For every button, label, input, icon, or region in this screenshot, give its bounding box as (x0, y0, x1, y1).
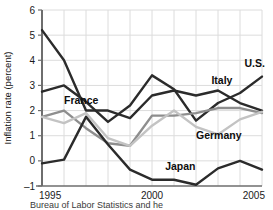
y-axis-label: Inflation rate (percent) (2, 52, 13, 145)
chart-figure: –10123456 199520002005 FranceItalyU.S.Ge… (0, 0, 273, 210)
y-tick-label: 3 (29, 80, 35, 91)
y-axis-title: Inflation rate (percent) (2, 52, 13, 145)
inflation-rate-line-chart: –10123456 199520002005 FranceItalyU.S.Ge… (0, 0, 273, 210)
series-inline-labels: FranceItalyU.S.GermanyJapan (64, 57, 265, 172)
y-tick-label: 4 (29, 55, 35, 66)
x-tick-label: 2005 (243, 190, 266, 201)
y-axis-ticks: –10123456 (24, 5, 42, 192)
y-tick-label: –1 (24, 181, 36, 192)
series-label-japan: Japan (165, 160, 195, 172)
y-tick-label: 6 (29, 5, 35, 16)
source-caption-text: Bureau of Labor Statistics and he (30, 200, 163, 210)
source-caption: Bureau of Labor Statistics and he (30, 200, 163, 210)
series-label-france: France (64, 94, 99, 106)
y-tick-label: 1 (29, 130, 35, 141)
series-label-italy: Italy (211, 74, 232, 86)
y-tick-label: 2 (29, 105, 35, 116)
y-tick-label: 5 (29, 30, 35, 41)
y-tick-label: 0 (29, 155, 35, 166)
series-label-germany: Germany (196, 129, 242, 141)
series-label-us: U.S. (244, 57, 265, 69)
